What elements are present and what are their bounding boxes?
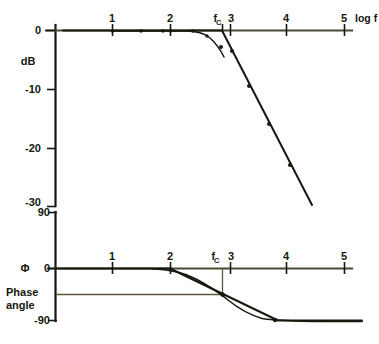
- phase-data-point-at-fc: [220, 292, 224, 296]
- magnitude-xlabel-1: 1: [109, 12, 115, 24]
- magnitude-data-point: [169, 29, 172, 32]
- phase-xlabel-1: 1: [109, 250, 115, 262]
- magnitude-data-point: [230, 49, 234, 53]
- magnitude-xlabel-3: 3: [228, 12, 234, 24]
- phase-ylabel-90: 90: [38, 206, 50, 218]
- magnitude-data-point: [267, 122, 271, 126]
- phase-axis-title-line1: Phase: [6, 286, 38, 298]
- phase-xlabel-5: 5: [341, 250, 347, 262]
- phase-plot-group: 90 0 -90 Φ Phase angle 1 2 3 4 5 f C: [6, 206, 362, 326]
- magnitude-data-point: [191, 29, 194, 32]
- phase-xlabel-4: 4: [283, 250, 290, 262]
- magnitude-asymptote: [63, 31, 312, 206]
- phase-axis-symbol: Φ: [20, 262, 29, 274]
- magnitude-data-point: [219, 45, 223, 49]
- phase-ylabel-minus90: -90: [34, 314, 50, 326]
- magnitude-xlabel-4: 4: [283, 12, 290, 24]
- magnitude-data-point: [205, 34, 208, 37]
- bode-plot-canvas: 0 -10 -20 -30 dB 1 2 3 4 5 f C log f: [0, 0, 379, 344]
- magnitude-data-point: [288, 163, 292, 167]
- magnitude-ylabel-minus20: -20: [25, 142, 41, 154]
- phase-cutoff-subscript: C: [214, 256, 220, 265]
- magnitude-axis-title: dB: [21, 55, 36, 67]
- magnitude-data-point: [139, 29, 142, 32]
- phase-xlabel-3: 3: [228, 250, 234, 262]
- magnitude-ylabel-minus10: -10: [25, 83, 41, 95]
- phase-data-point: [273, 318, 277, 322]
- phase-ylabel-0: 0: [44, 262, 50, 274]
- magnitude-ylabel-0: 0: [35, 24, 41, 36]
- phase-actual-curve: [152, 269, 362, 322]
- magnitude-xaxis-title: log f: [355, 12, 378, 24]
- bode-plot-figure: 0 -10 -20 -30 dB 1 2 3 4 5 f C log f: [0, 0, 379, 344]
- magnitude-data-point: [111, 29, 114, 32]
- magnitude-data-point: [247, 84, 251, 88]
- phase-xlabel-2: 2: [167, 250, 173, 262]
- magnitude-plot-group: 0 -10 -20 -30 dB 1 2 3 4 5 f C log f: [21, 12, 378, 208]
- magnitude-cutoff-subscript: C: [216, 18, 222, 27]
- phase-data-point: [169, 267, 173, 271]
- phase-axis-title-line2: angle: [6, 299, 35, 311]
- magnitude-xlabel-2: 2: [167, 12, 173, 24]
- magnitude-data-point: [161, 29, 164, 32]
- magnitude-xlabel-5: 5: [341, 12, 347, 24]
